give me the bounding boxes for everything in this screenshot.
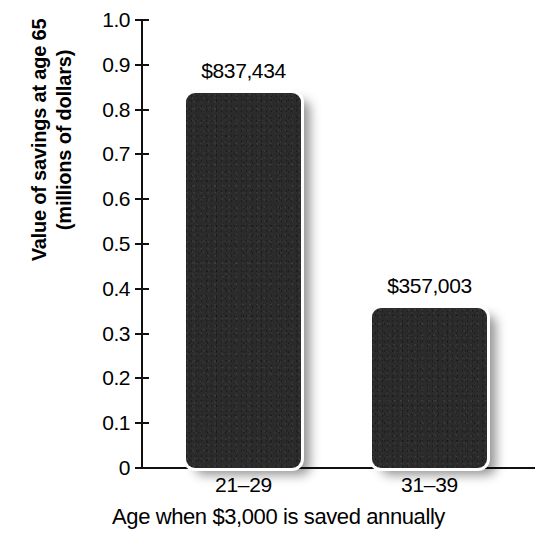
y-axis-tick-label: 0.6 [82,188,130,209]
bar-group: $837,434 [186,20,301,468]
x-axis-tick-label: 21–29 [186,474,301,496]
y-axis-tick-label: 1.0 [82,9,130,30]
y-axis-tick-label: 0.1 [82,412,130,433]
y-axis-tick-label: 0.9 [82,54,130,75]
y-axis-tick-label: 0 [82,457,130,478]
y-axis-tick-label: 0.4 [82,278,130,299]
y-axis-title-line-1: Value of savings at age 65 [27,19,52,262]
bar [372,308,487,468]
y-axis-title: Value of savings at age 65 (millions of … [22,0,82,300]
bar-value-label: $357,003 [372,275,487,296]
bar-group: $357,003 [372,20,487,468]
y-axis-title-line-2: (millions of dollars) [52,50,77,230]
x-axis-tick-label: 31–39 [372,474,487,496]
bar-value-label: $837,434 [186,60,301,81]
bar-chart: Value of savings at age 65 (millions of … [0,0,557,539]
y-axis-tick-label: 0.3 [82,323,130,344]
x-axis-title: Age when $3,000 is saved annually [0,505,557,529]
bar [186,93,301,468]
y-axis-tick-label: 0.8 [82,99,130,120]
y-axis-tick-labels: 00.10.20.30.40.50.60.70.80.91.0 [78,0,130,539]
plot-area: $837,434$357,003 [143,20,535,468]
y-axis-tick-label: 0.2 [82,367,130,388]
y-axis-tick-label: 0.5 [82,233,130,254]
y-axis-tick-label: 0.7 [82,143,130,164]
